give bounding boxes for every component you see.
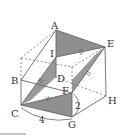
measure-FG: 2 <box>75 101 81 111</box>
label-H: H <box>108 95 117 106</box>
label-G: G <box>68 119 76 130</box>
measure-CG: 4 <box>39 115 45 125</box>
cube-diagram: A E I B D F H C G 4 2 <box>0 0 121 138</box>
label-F: F <box>62 85 69 96</box>
label-I: I <box>50 48 54 59</box>
label-D: D <box>57 73 65 84</box>
label-B: B <box>11 75 18 86</box>
label-C: C <box>11 108 19 119</box>
label-A: A <box>50 20 59 31</box>
label-E: E <box>107 38 114 49</box>
